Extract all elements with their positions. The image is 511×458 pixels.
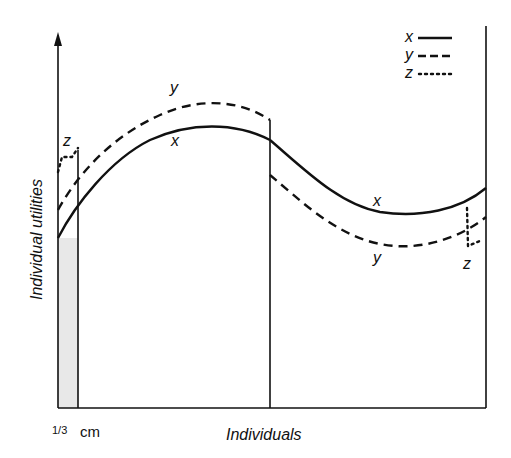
label-left-z: z — [62, 132, 71, 149]
label-right-y: y — [372, 249, 382, 266]
axes — [58, 26, 486, 408]
x-axis-label: Individuals — [226, 426, 302, 443]
legend: x y z — [404, 28, 452, 81]
label-right-x: x — [372, 192, 382, 209]
curve-x-left — [58, 127, 270, 239]
y-axis-label: Individual utilities — [28, 179, 45, 300]
shaded-strip — [58, 238, 78, 408]
curve-z-left — [58, 148, 78, 172]
label-left-x: x — [170, 132, 180, 149]
label-right-z: z — [462, 255, 471, 272]
curve-z-right — [467, 208, 482, 246]
y-axis-arrow-icon — [54, 32, 62, 46]
legend-z-label: z — [404, 64, 413, 81]
tick-unit: cm — [80, 423, 100, 440]
legend-y-label: y — [404, 46, 414, 63]
curve-y-left — [58, 103, 270, 210]
label-left-y: y — [169, 79, 179, 96]
tick-fraction: 1/3 — [52, 424, 67, 436]
legend-x-label: x — [404, 28, 414, 45]
utility-diagram: y x z x y z x y z Individual utilities I… — [0, 0, 511, 458]
